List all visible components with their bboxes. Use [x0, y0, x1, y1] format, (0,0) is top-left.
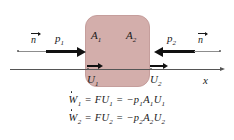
area-left-label: A1	[91, 30, 101, 44]
velocity-left-label: U1	[87, 74, 98, 88]
area-left-symbol: A	[91, 29, 98, 41]
x-axis-line	[10, 69, 221, 70]
velocity-left-subscript: 1	[95, 80, 99, 88]
right-pressure-arrow-head	[154, 47, 163, 57]
equation-line-1: W1 = FU1 = −p1A1U1	[0, 93, 234, 111]
equation-1-middle-subscript: 1	[109, 100, 113, 108]
left-line-endpoint-dot	[17, 50, 19, 52]
u2-axis-dot	[150, 68, 152, 70]
velocity-right-subscript: 2	[158, 80, 162, 88]
normal-left-symbol: n	[31, 34, 36, 45]
equation-2-right-end: U	[154, 112, 162, 123]
equation-1-right-end: U	[154, 94, 162, 105]
equation-2-right-mid: A	[143, 112, 150, 123]
work-rate-2-subscript: 2	[78, 118, 82, 126]
physics-diagram-control-volume: n n p1 p2 A1 A2 U1 U2 x W1 = FU1 = −p1A1…	[0, 0, 234, 140]
velocity-left-symbol: U	[87, 73, 95, 85]
normal-right-vector-bar	[198, 33, 207, 34]
pressure-right-subscript: 2	[173, 39, 177, 47]
velocity-right-label: U2	[150, 74, 161, 88]
u2-velocity-arrow-shaft	[150, 65, 164, 67]
equation-2-middle-subscript: 2	[109, 118, 113, 126]
left-pressure-arrow-shaft	[46, 50, 78, 53]
equation-line-2: W2 = FU2 = −p2A2U2	[0, 111, 234, 129]
work-rate-2-symbol: W	[69, 111, 78, 125]
equation-1-middle: = FU	[84, 94, 109, 105]
area-right-symbol: A	[126, 29, 133, 41]
x-axis-arrow-head	[220, 67, 225, 71]
area-right-label: A2	[126, 30, 136, 44]
equation-1-right: = −p	[116, 94, 139, 105]
equations-block: W1 = FU1 = −p1A1U1 W2 = FU2 = −p2A2U2	[0, 93, 234, 129]
right-line-endpoint-dot	[219, 50, 221, 52]
left-pressure-arrow-head	[77, 47, 86, 57]
equation-1-right-mid: A	[143, 94, 150, 105]
pressure-left-label: p1	[55, 33, 64, 47]
normal-vector-left-label: n	[31, 35, 36, 45]
equation-2-right-sub3: 2	[162, 118, 166, 126]
area-left-subscript: 1	[98, 36, 102, 44]
pressure-left-subscript: 1	[61, 39, 65, 47]
right-normal-line	[194, 51, 220, 52]
work-rate-1-symbol: W	[69, 93, 78, 107]
area-right-subscript: 2	[133, 36, 137, 44]
normal-right-symbol: n	[198, 34, 203, 45]
equation-2-middle: = FU	[84, 112, 109, 123]
equation-2-right: = −p	[116, 112, 139, 123]
normal-vector-right-label: n	[198, 35, 203, 45]
left-normal-line	[18, 51, 48, 52]
equation-1-right-sub3: 1	[162, 100, 166, 108]
right-pressure-arrow-shaft	[163, 50, 195, 53]
velocity-right-symbol: U	[150, 73, 158, 85]
normal-left-vector-bar	[31, 33, 40, 34]
u1-axis-dot	[87, 68, 89, 70]
u1-velocity-arrow-head	[98, 63, 103, 69]
work-rate-1-subscript: 1	[78, 100, 82, 108]
pressure-right-label: p2	[167, 33, 176, 47]
u2-velocity-arrow-head	[163, 63, 168, 69]
x-axis-label: x	[203, 75, 208, 86]
